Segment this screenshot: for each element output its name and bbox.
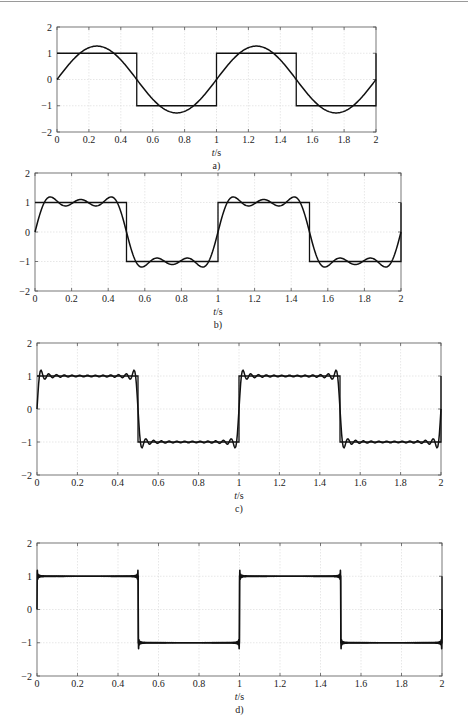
x-tick-label: 1.4 <box>285 293 298 304</box>
y-tick-label: 2 <box>25 168 30 179</box>
x-tick-label: 1.8 <box>395 678 408 689</box>
x-tick-label: 1.2 <box>273 477 286 488</box>
x-axis-label: t/s <box>234 490 244 501</box>
x-tick-label: 0.6 <box>152 678 165 689</box>
y-tick-label: −1 <box>21 637 32 648</box>
x-tick-label: 1.8 <box>394 477 407 488</box>
x-tick-label: 1 <box>216 293 221 304</box>
subplot-caption: d) <box>235 704 243 716</box>
x-tick-label: 0.8 <box>193 678 206 689</box>
subplot-d: 00.20.40.60.811.21.41.61.82210−1−2t/sd) <box>21 538 444 717</box>
y-tick-label: −2 <box>41 127 52 138</box>
x-tick-label: 1.2 <box>248 293 261 304</box>
x-axis-label: t/s <box>213 306 223 317</box>
y-tick-label: 2 <box>27 338 32 349</box>
x-tick-label: 0.6 <box>139 293 152 304</box>
x-tick-label: 0.2 <box>83 134 96 145</box>
y-tick-label: 2 <box>27 538 32 549</box>
y-tick-label: −2 <box>19 286 30 297</box>
x-tick-label: 0.4 <box>102 293 115 304</box>
x-tick-label: 1.6 <box>306 134 319 145</box>
x-tick-label: 1 <box>237 477 242 488</box>
y-tick-label: 0 <box>47 74 52 85</box>
x-tick-label: 0 <box>35 678 40 689</box>
x-tick-label: 0.4 <box>112 678 125 689</box>
y-tick-label: 0 <box>27 404 32 415</box>
x-tick-label: 1.6 <box>322 293 335 304</box>
x-tick-label: 0.8 <box>175 293 188 304</box>
x-tick-label: 1.8 <box>338 134 351 145</box>
x-tick-label: 2 <box>439 477 444 488</box>
subplot-a: 00.20.40.60.811.21.41.61.82210−1−2t/sa) <box>41 22 378 173</box>
x-tick-label: 0.6 <box>152 477 165 488</box>
y-tick-label: −2 <box>21 470 32 481</box>
x-tick-label: 1.4 <box>314 678 327 689</box>
x-tick-label: 1.8 <box>358 293 371 304</box>
x-axis-label: t/s <box>235 691 245 702</box>
y-tick-label: 1 <box>27 371 32 382</box>
x-tick-label: 1.4 <box>274 134 287 145</box>
x-tick-label: 0 <box>33 293 38 304</box>
y-tick-label: 0 <box>27 604 32 615</box>
x-tick-label: 0.2 <box>65 293 78 304</box>
y-tick-label: −1 <box>19 256 30 267</box>
x-tick-label: 0.4 <box>112 477 125 488</box>
y-tick-label: 1 <box>25 197 30 208</box>
x-tick-label: 1.2 <box>274 678 287 689</box>
x-tick-label: 1.4 <box>314 477 327 488</box>
x-tick-label: 0.8 <box>192 477 205 488</box>
y-tick-label: 1 <box>47 48 52 59</box>
subplot-caption: b) <box>214 319 222 331</box>
y-tick-label: −2 <box>21 671 32 682</box>
y-tick-label: 0 <box>25 227 30 238</box>
x-tick-label: 1.2 <box>242 134 255 145</box>
x-tick-label: 2 <box>374 134 379 145</box>
x-tick-label: 1 <box>214 134 219 145</box>
x-tick-label: 1.6 <box>354 477 367 488</box>
subplot-c: 00.20.40.60.811.21.41.61.82210−1−2t/sc) <box>21 338 443 516</box>
x-tick-label: 0.4 <box>115 134 128 145</box>
y-tick-label: −1 <box>21 437 32 448</box>
x-tick-label: 0 <box>55 134 60 145</box>
subplot-caption: c) <box>235 503 243 515</box>
x-tick-label: 0.2 <box>71 678 84 689</box>
x-tick-label: 0.2 <box>71 477 84 488</box>
x-tick-label: 0 <box>35 477 40 488</box>
subplot-caption: a) <box>213 160 221 172</box>
y-tick-label: 1 <box>27 571 32 582</box>
y-tick-label: −1 <box>41 100 52 111</box>
subplot-b: 00.20.40.60.811.21.41.61.82210−1−2t/sb) <box>19 168 403 332</box>
x-tick-label: 1 <box>237 678 242 689</box>
x-tick-label: 1.6 <box>355 678 368 689</box>
x-tick-label: 0.8 <box>178 134 191 145</box>
figure: 00.20.40.60.811.21.41.61.82210−1−2t/sa) … <box>0 0 468 724</box>
y-tick-label: 2 <box>47 22 52 33</box>
x-axis-label: t/s <box>212 147 222 158</box>
x-tick-label: 2 <box>440 678 445 689</box>
x-tick-label: 2 <box>399 293 404 304</box>
x-tick-label: 0.6 <box>146 134 159 145</box>
